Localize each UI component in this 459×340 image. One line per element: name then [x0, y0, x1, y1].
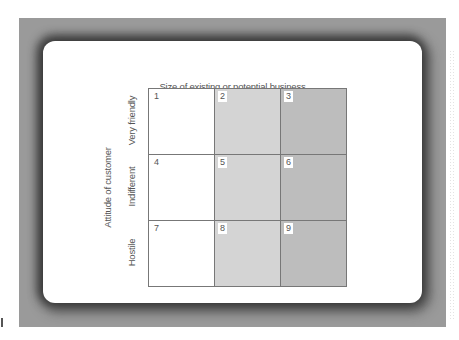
matrix-cell-7: 7 — [149, 221, 215, 286]
row-header-hostile: Hostile — [126, 220, 137, 286]
matrix-cell-3: 3 — [281, 89, 346, 155]
cell-number: 8 — [218, 223, 227, 234]
matrix-cell-2: 2 — [215, 89, 281, 155]
page-edge-mark — [1, 318, 3, 327]
cell-number: 4 — [152, 157, 161, 168]
matrix-cell-4: 4 — [149, 155, 215, 221]
matrix-grid: 1 2 3 4 5 6 7 8 9 — [148, 88, 347, 287]
matrix-cell-8: 8 — [215, 221, 281, 286]
cell-number: 3 — [284, 91, 293, 102]
y-axis-title: Attitude of customer — [102, 118, 113, 258]
row-header-very-friendly: Very friendly — [126, 88, 137, 154]
cell-number: 7 — [152, 223, 161, 234]
matrix-cell-5: 5 — [215, 155, 281, 221]
matrix-cell-1: 1 — [149, 89, 215, 155]
cell-number: 6 — [284, 157, 293, 168]
matrix-cell-6: 6 — [281, 155, 346, 221]
row-header-indifferent: Indifferent — [126, 154, 137, 220]
cell-number: 1 — [152, 91, 161, 102]
matrix-cell-9: 9 — [281, 221, 346, 286]
page-edge-texture — [449, 50, 455, 320]
cell-number: 2 — [218, 91, 227, 102]
cell-number: 9 — [284, 223, 293, 234]
figure-card: Size of existing or potential business L… — [43, 41, 422, 303]
cell-number: 5 — [218, 157, 227, 168]
figure-frame: Size of existing or potential business L… — [19, 18, 446, 327]
